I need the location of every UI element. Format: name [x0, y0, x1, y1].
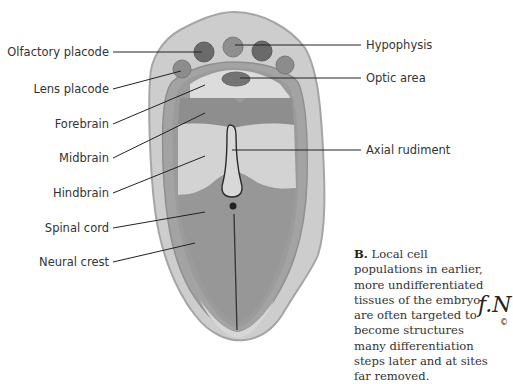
notochord-dot: [230, 203, 237, 210]
label-spinal-cord: Spinal cord: [45, 221, 109, 235]
label-olfactory-placode: Olfactory placode: [7, 45, 109, 59]
label-neural-crest: Neural crest: [39, 255, 109, 269]
label-forebrain: Forebrain: [55, 117, 109, 131]
label-hypophysis: Hypophysis: [366, 38, 432, 52]
artist-signature: f.N: [478, 292, 512, 317]
copyright-mark: ©: [500, 318, 508, 327]
midbrain-region: [178, 98, 294, 128]
optic-area-shape: [222, 72, 250, 86]
label-lens-placode: Lens placode: [34, 82, 110, 96]
label-hindbrain: Hindbrain: [53, 186, 109, 200]
caption-text: Local cell populations in earlier, more …: [354, 247, 488, 383]
label-optic-area: Optic area: [366, 71, 426, 85]
lens-placode-right: [276, 56, 294, 74]
label-axial-rudiment: Axial rudiment: [366, 143, 450, 157]
label-midbrain: Midbrain: [59, 151, 109, 165]
olfactory-placode-right: [252, 41, 272, 61]
caption-panel-letter: B.: [354, 247, 368, 261]
figure-caption: B. Local cell populations in earlier, mo…: [354, 247, 494, 384]
hypophysis-placode: [223, 37, 243, 57]
lens-placode-left: [173, 60, 191, 78]
